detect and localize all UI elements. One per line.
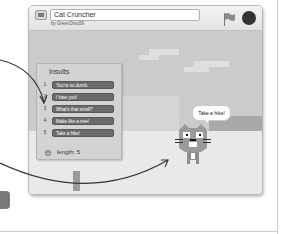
list-monitor[interactable]: Insults 1 You're so dumb. 2 I hate you! …: [36, 63, 122, 160]
stop-sign-icon[interactable]: [242, 11, 256, 25]
list-length: length: 5: [57, 149, 80, 155]
list-item[interactable]: 3 What's that smell?: [42, 105, 118, 114]
cloud: [184, 67, 209, 72]
list-title: Insults: [49, 68, 69, 75]
list-item-index: 3: [42, 106, 48, 111]
list-item[interactable]: 1 You're so dumb.: [42, 81, 118, 90]
list-item[interactable]: 5 Take a hike!: [42, 129, 118, 138]
list-item-index: 4: [42, 118, 48, 123]
fullscreen-icon[interactable]: [35, 10, 47, 20]
list-item-value[interactable]: You're so dumb.: [52, 81, 114, 89]
list-item-index: 2: [42, 94, 48, 99]
list-item-value[interactable]: Make like a tree!: [52, 117, 114, 125]
speech-bubble: Take a hike!: [192, 105, 231, 121]
list-item-index: 5: [42, 130, 48, 135]
side-block: [0, 191, 10, 209]
cloud: [139, 55, 159, 60]
author-byline: by GreenDino09: [51, 21, 84, 26]
title-bar: Cat Cruncher by GreenDino09: [29, 6, 262, 31]
list-item-value[interactable]: I hate you!: [52, 93, 114, 101]
list-item[interactable]: 2 I hate you!: [42, 93, 118, 102]
page-border-right: [277, 0, 278, 234]
post: [73, 171, 80, 191]
cat-sprite[interactable]: [173, 120, 213, 165]
list-item-value[interactable]: What's that smell?: [52, 105, 114, 113]
page-border-bottom: [0, 231, 278, 232]
hill: [119, 96, 179, 136]
green-flag-icon[interactable]: [223, 12, 235, 26]
add-item-button[interactable]: +: [45, 150, 51, 156]
project-title-field[interactable]: Cat Cruncher: [50, 9, 200, 21]
list-item[interactable]: 4 Make like a tree!: [42, 117, 118, 126]
list-item-value[interactable]: Take a hike!: [52, 129, 114, 137]
scratch-player-window: Cat Cruncher by GreenDino09 Insults 1 Yo…: [28, 5, 263, 195]
list-item-index: 1: [42, 82, 48, 87]
